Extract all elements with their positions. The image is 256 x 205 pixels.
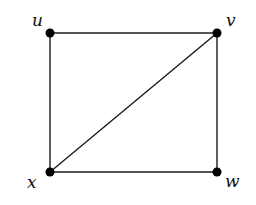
node-w	[213, 168, 222, 177]
node-u	[46, 29, 55, 38]
node-label-v: v	[226, 10, 236, 30]
node-label-u: u	[32, 10, 43, 30]
node-v	[213, 29, 222, 38]
graph-diagram: u v x w	[0, 0, 256, 205]
node-label-x: x	[27, 172, 37, 192]
edges	[50, 33, 217, 172]
node-x	[46, 168, 55, 177]
node-label-w: w	[225, 171, 240, 191]
edge-x-v	[50, 33, 217, 172]
